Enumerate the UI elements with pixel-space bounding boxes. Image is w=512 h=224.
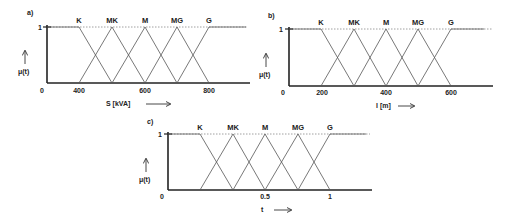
panel-b: b) K MK M MG G 1 μ(t) 0 200 400 600 l [m… (259, 12, 493, 110)
set-label-MK: MK (348, 18, 360, 27)
panel-a-xlabel: S [kVA] (106, 100, 130, 108)
panel-a-y-tick-label: 1 (38, 24, 42, 31)
panel-b-tick-600: 600 (445, 89, 457, 96)
membership-functions-figure: a) K MK M MG G 1 μ(t) 0 400 600 800 S [k… (0, 0, 512, 224)
curve-MG (145, 27, 209, 83)
panel-a: a) K MK M MG G 1 μ(t) 0 400 600 800 S [k… (18, 9, 250, 108)
set-label-MG: MG (412, 18, 424, 27)
set-label-K: K (197, 123, 203, 132)
set-label-G: G (206, 16, 212, 25)
curve-G (418, 29, 484, 86)
panel-b-tag: b) (268, 12, 275, 20)
panel-c: c) K MK M MG G 1 μ(t) 0 0.5 1 t (139, 118, 372, 213)
curve-K (47, 27, 112, 83)
curve-MK (79, 27, 145, 83)
curve-MK (321, 29, 386, 86)
curve-M (233, 134, 298, 190)
panel-b-tick-200: 200 (316, 89, 328, 96)
panel-c-ylabel: μ(t) (139, 176, 150, 184)
panel-b-tick-400: 400 (380, 89, 392, 96)
panel-c-tag: c) (147, 118, 153, 126)
curve-K (289, 29, 354, 86)
curve-K (168, 134, 233, 190)
curve-G (177, 27, 246, 83)
set-label-MG: MG (171, 16, 183, 25)
curve-G (298, 134, 366, 190)
set-label-G: G (327, 123, 333, 132)
set-label-K: K (318, 18, 324, 27)
panel-b-ylabel: μ(t) (259, 71, 270, 79)
panel-a-tick-800: 800 (203, 87, 215, 94)
panel-a-tick-400: 400 (73, 87, 85, 94)
set-label-M: M (262, 123, 268, 132)
set-label-MK: MK (227, 123, 239, 132)
panel-c-tick-0-5: 0.5 (260, 193, 270, 200)
panel-c-origin: 0 (160, 193, 164, 200)
panel-b-xlabel: l [m] (376, 102, 391, 110)
panel-a-ylabel: μ(t) (18, 68, 29, 76)
set-label-M: M (383, 18, 389, 27)
panel-b-y-tick-label: 1 (279, 26, 283, 33)
set-label-G: G (448, 18, 454, 27)
curve-M (112, 27, 177, 83)
set-label-MK: MK (106, 16, 118, 25)
set-label-M: M (142, 16, 148, 25)
panel-a-curves (47, 27, 246, 83)
curve-M (354, 29, 418, 86)
panel-a-tick-600: 600 (139, 87, 151, 94)
panel-c-xlabel: t (261, 206, 264, 213)
panel-a-origin: 0 (40, 87, 44, 94)
panel-c-curves (168, 134, 366, 190)
panel-c-y-tick-label: 1 (158, 131, 162, 138)
curve-MG (265, 134, 330, 190)
set-label-MG: MG (292, 123, 304, 132)
curve-MG (386, 29, 451, 86)
panel-b-curves (289, 29, 484, 86)
set-label-K: K (76, 16, 82, 25)
panel-c-tick-1: 1 (328, 193, 332, 200)
panel-a-tag: a) (27, 9, 33, 17)
curve-MK (200, 134, 265, 190)
panel-b-origin: 0 (281, 89, 285, 96)
